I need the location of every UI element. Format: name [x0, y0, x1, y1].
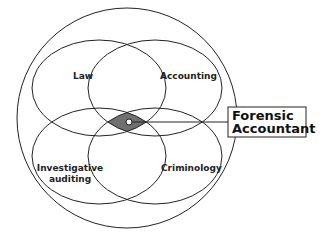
label-criminology: Criminology	[161, 163, 222, 173]
label-accounting: Accounting	[160, 71, 217, 81]
label-accountant: Accountant	[232, 121, 315, 136]
label-investigative: Investigative	[37, 163, 103, 173]
label-auditing: auditing	[49, 174, 91, 184]
label-law: Law	[73, 71, 93, 81]
center-dot	[126, 119, 132, 125]
venn-diagram: Law Accounting Investigative auditing Cr…	[0, 0, 327, 237]
